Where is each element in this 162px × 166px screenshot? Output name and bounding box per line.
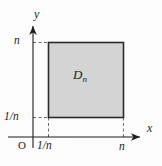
region-label: Dn xyxy=(73,68,87,84)
origin-label: O xyxy=(18,140,26,151)
y-tick-label-one-over-n: 1/n xyxy=(4,111,19,123)
x-tick-label-one-over-n: 1/n xyxy=(37,140,52,152)
figure-container: y x O n 1/n 1/n n Dn xyxy=(0,0,162,166)
region-label-symbol: D xyxy=(73,67,82,82)
region-label-subscript: n xyxy=(82,74,87,84)
x-tick-label-n: n xyxy=(119,141,125,153)
y-tick-label-n: n xyxy=(14,35,20,47)
y-axis-label: y xyxy=(34,8,39,20)
x-axis-label: x xyxy=(147,122,152,134)
